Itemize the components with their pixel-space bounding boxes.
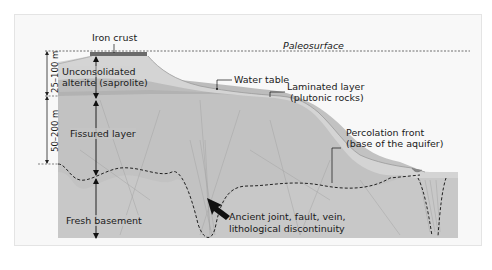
paleosurface-label: Paleosurface [283,40,344,51]
discontinuity-label-line1: Ancient joint, fault, vein, [229,211,346,222]
laminated-layer-label-line1: Laminated layer [287,81,364,92]
percolation-front-label-line2: (base of the aquifer) [346,138,443,149]
alterite-label-line2: alterite (saprolite) [62,77,148,88]
alterite-label-line1: Unconsolidated [62,66,136,77]
alterite-thickness-label: 25–100 m [50,51,60,93]
iron-crust-band [90,52,147,56]
iron-crust-label: Iron crust [92,32,137,43]
discontinuity-label-line2: lithological discontinuity [229,223,345,234]
fissured-thickness-label: 50–200 m [50,110,60,152]
fissured-layer-label: Fissured layer [70,128,136,139]
fresh-basement-label: Fresh basement [66,215,142,226]
percolation-front-label-line1: Percolation front [346,127,424,138]
water-table-label: Water table [234,74,289,85]
laminated-layer-label-line2: (plutonic rocks) [290,92,364,103]
